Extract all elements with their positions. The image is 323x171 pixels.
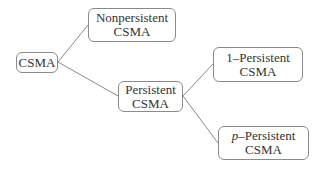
node-csma-label: CSMA (19, 56, 56, 70)
edge-persistent-1persistent (183, 64, 213, 96)
edge-root-nonpersistent (58, 25, 88, 62)
node-persistent-line2: CSMA (132, 97, 169, 111)
node-1-persistent-line2: CSMA (240, 65, 277, 79)
node-csma: CSMA (16, 52, 58, 73)
p-persistent-rest: –Persistent (238, 128, 295, 143)
node-nonpersistent-csma: Nonpersistent CSMA (88, 8, 176, 42)
edge-root-persistent (58, 62, 118, 96)
node-nonpersistent-line1: Nonpersistent (96, 11, 168, 25)
node-1-persistent-csma: 1–Persistent CSMA (213, 47, 303, 82)
node-p-persistent-line2: CSMA (245, 143, 282, 157)
node-nonpersistent-line2: CSMA (114, 25, 151, 39)
node-persistent-line1: Persistent (125, 83, 176, 97)
node-persistent-csma: Persistent CSMA (118, 81, 183, 112)
node-1-persistent-line1: 1–Persistent (226, 51, 290, 65)
edge-persistent-ppersistent (183, 96, 218, 143)
node-p-persistent-line1: p–Persistent (232, 129, 296, 143)
node-p-persistent-csma: p–Persistent CSMA (218, 126, 309, 160)
